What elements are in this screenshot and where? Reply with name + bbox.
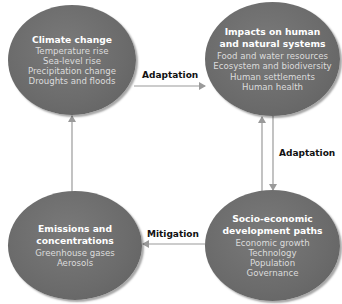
node-item: Ecosystem and biodiversity — [213, 61, 331, 71]
node-item: Precipitation change — [28, 66, 116, 76]
node-item: Governance — [247, 268, 299, 278]
node-title-line1: Socio-economic — [232, 213, 313, 224]
node-item: Human settlements — [230, 72, 315, 82]
edge-label-adaptation-right: Adaptation — [279, 148, 335, 158]
node-socio-economic: Socio-economic development paths Economi… — [205, 190, 340, 301]
node-item: Food and water resources — [217, 51, 328, 61]
node-item: Sea-level rise — [43, 56, 101, 66]
node-title-line1: Impacts on human — [225, 26, 321, 37]
node-item: Human health — [242, 82, 303, 92]
node-title-line2: concentrations — [36, 235, 114, 246]
node-item: Aerosols — [57, 258, 93, 268]
node-emissions: Emissions and concentrations Greenhouse … — [8, 191, 142, 300]
node-title: Climate change — [32, 34, 112, 45]
node-item: Temperature rise — [36, 46, 109, 56]
node-item: Population — [250, 258, 295, 268]
node-item: Greenhouse gases — [35, 248, 115, 258]
node-impacts: Impacts on human and natural systems Foo… — [205, 2, 340, 116]
node-item: Economic growth — [235, 238, 309, 248]
node-title-line2: development paths — [222, 225, 322, 236]
node-item: Technology — [248, 248, 296, 258]
edge-label-mitigation: Mitigation — [147, 229, 199, 239]
node-climate-change: Climate change Temperature rise Sea-leve… — [8, 5, 136, 115]
node-title-line2: and natural systems — [220, 38, 326, 49]
node-title-line1: Emissions and — [38, 223, 112, 234]
node-item: Droughts and floods — [29, 76, 116, 86]
edge-label-adaptation-top: Adaptation — [142, 70, 198, 80]
